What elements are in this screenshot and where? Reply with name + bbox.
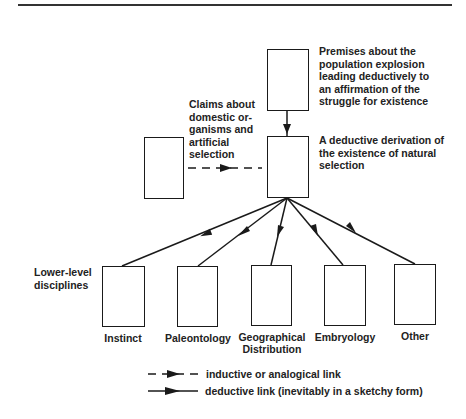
- text-line: population explosion: [319, 58, 429, 71]
- center-node-box: [267, 136, 309, 198]
- discipline-box-embryology: [324, 265, 366, 326]
- text-line: domestic or-: [189, 111, 255, 124]
- text-line: struggle for existence: [319, 95, 429, 108]
- caption-other: Other: [395, 330, 435, 342]
- text-line: ganisms and: [189, 123, 255, 136]
- top-node-label: Premises about the population explosion …: [319, 45, 429, 108]
- center-node-label: A deductive derivation of the existence …: [319, 134, 444, 172]
- caption-paleontology: Paleontology: [160, 332, 236, 344]
- top-node-box: [267, 49, 309, 111]
- text-line: selection: [319, 159, 444, 172]
- discipline-box-other: [394, 264, 436, 325]
- discipline-box-geographical-distribution: [251, 265, 292, 326]
- text-line: Distribution: [236, 343, 308, 355]
- discipline-box-instinct: [102, 266, 145, 327]
- lower-level-label: Lower-level disciplines: [34, 266, 92, 291]
- caption-geographical-distribution: Geographical Distribution: [236, 331, 308, 355]
- caption-instinct: Instinct: [92, 332, 154, 344]
- text-line: Claims about: [189, 98, 255, 111]
- legend-dashed-line: [148, 370, 198, 378]
- left-node-label: Claims about domestic or- ganisms and ar…: [189, 98, 255, 161]
- inductive-link: [188, 164, 262, 172]
- discipline-box-paleontology: [177, 266, 218, 327]
- caption-embryology: Embryology: [311, 331, 379, 343]
- text-line: Lower-level: [34, 266, 92, 279]
- text-line: leading deductively to: [319, 70, 429, 83]
- text-line: artificial: [189, 136, 255, 149]
- text-line: an affirmation of the: [319, 83, 429, 96]
- text-line: the existence of natural: [319, 147, 444, 160]
- legend-solid-line: [148, 387, 198, 395]
- legend-inductive-label: inductive or analogical link: [206, 368, 341, 381]
- text-line: Geographical: [236, 331, 308, 343]
- legend-deductive-label: deductive link (inevitably in a sketchy …: [205, 385, 423, 398]
- deductive-fan: [122, 198, 415, 266]
- text-line: A deductive derivation of: [319, 134, 444, 147]
- text-line: Premises about the: [319, 45, 429, 58]
- left-node-box: [144, 137, 184, 199]
- text-line: selection: [189, 148, 255, 161]
- top-to-center-link: [283, 110, 291, 136]
- text-line: disciplines: [34, 279, 92, 292]
